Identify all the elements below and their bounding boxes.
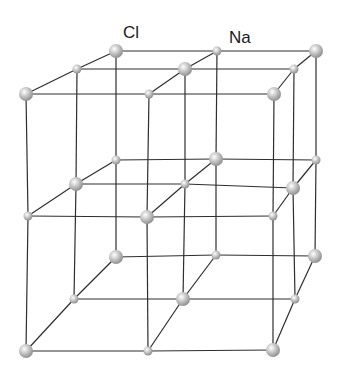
lattice-edge bbox=[74, 184, 76, 299]
lattice-edge bbox=[26, 69, 77, 94]
sodium-ion bbox=[70, 295, 79, 304]
sodium-ion bbox=[290, 65, 299, 74]
lattice-edge bbox=[26, 216, 28, 351]
label-cl: Cl bbox=[123, 24, 139, 41]
lattice-ions bbox=[19, 44, 323, 358]
lattice-edge bbox=[216, 255, 315, 256]
sodium-ion bbox=[73, 65, 82, 74]
label-na: Na bbox=[229, 29, 251, 46]
lattice-edge bbox=[147, 94, 149, 217]
lattice-edge bbox=[148, 350, 273, 351]
chloride-ion bbox=[19, 87, 33, 101]
lattice-edge bbox=[147, 184, 185, 217]
chloride-ion bbox=[267, 87, 281, 101]
lattice-edge bbox=[273, 299, 295, 350]
lattice-edge bbox=[74, 257, 116, 299]
lattice-edge bbox=[147, 217, 148, 351]
lattice-edge bbox=[116, 255, 216, 257]
lattice-edge bbox=[183, 255, 216, 299]
lattice-edge bbox=[273, 94, 274, 216]
lattice-edge bbox=[293, 69, 294, 188]
lattice-edge bbox=[216, 159, 316, 160]
lattice-edge bbox=[26, 299, 74, 351]
sodium-ion bbox=[291, 295, 300, 304]
chloride-ion bbox=[69, 177, 83, 191]
lattice-edge bbox=[76, 69, 77, 184]
lattice-edge bbox=[28, 216, 147, 217]
sodium-ion bbox=[213, 47, 222, 56]
lattice-edge bbox=[28, 184, 76, 216]
chloride-ion bbox=[209, 152, 223, 166]
chloride-ion bbox=[266, 343, 280, 357]
nacl-lattice-diagram: Cl Na bbox=[0, 0, 344, 385]
sodium-ion bbox=[112, 156, 121, 165]
lattice-edge bbox=[183, 184, 185, 299]
lattice-edge bbox=[293, 188, 295, 299]
sodium-ion bbox=[312, 156, 321, 165]
sodium-ion bbox=[212, 251, 221, 260]
chloride-ion bbox=[178, 62, 192, 76]
lattice-edge bbox=[148, 299, 183, 351]
sodium-ion bbox=[269, 212, 278, 221]
sodium-ion bbox=[24, 212, 33, 221]
chloride-ion bbox=[286, 181, 300, 195]
chloride-ion bbox=[176, 292, 190, 306]
sodium-ion bbox=[145, 90, 154, 99]
lattice-svg bbox=[0, 0, 344, 385]
lattice-edge bbox=[116, 159, 216, 160]
sodium-ion bbox=[144, 347, 153, 356]
lattice-edge bbox=[295, 256, 315, 299]
chloride-ion bbox=[140, 210, 154, 224]
lattice-edge bbox=[185, 184, 293, 188]
chloride-ion bbox=[309, 44, 323, 58]
sodium-ion bbox=[181, 180, 190, 189]
lattice-edge bbox=[26, 94, 28, 216]
chloride-ion bbox=[19, 344, 33, 358]
chloride-ion bbox=[109, 250, 123, 264]
chloride-ion bbox=[308, 249, 322, 263]
lattice-edge bbox=[216, 51, 217, 159]
lattice-edge bbox=[147, 216, 273, 217]
chloride-ion bbox=[109, 44, 123, 58]
lattice-edge bbox=[315, 160, 316, 256]
